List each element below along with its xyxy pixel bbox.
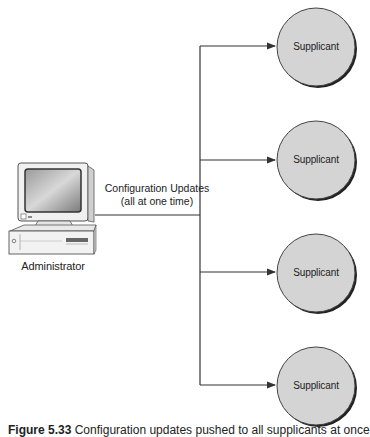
edge-label-line1: Configuration Updates <box>105 182 209 195</box>
desktop-computer-icon <box>9 163 96 254</box>
supplicant-label-1: Supplicant <box>293 41 339 52</box>
configuration-updates-label: Configuration Updates (all at one time) <box>105 182 209 208</box>
figure-caption: Figure 5.33 Configuration updates pushed… <box>8 423 370 437</box>
edge-label-line2: (all at one time) <box>105 195 209 208</box>
supplicant-label-2: Supplicant <box>293 154 339 165</box>
connector-lines <box>95 46 275 385</box>
figure-number: Figure 5.33 <box>8 423 71 437</box>
supplicant-label-3: Supplicant <box>293 267 339 278</box>
administrator-label: Administrator <box>21 260 85 272</box>
figure-caption-text: Configuration updates pushed to all supp… <box>75 423 370 437</box>
supplicant-label-4: Supplicant <box>293 380 339 391</box>
